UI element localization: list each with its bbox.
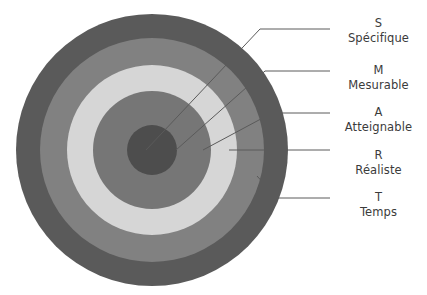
legend-entry-m: M Mesurable [330, 63, 427, 93]
legend-letter-m: M [330, 63, 427, 78]
legend: S Spécifique M Mesurable A Atteignable R… [330, 0, 427, 295]
legend-word-mesurable: Mesurable [330, 78, 427, 93]
legend-word-specifique: Spécifique [330, 31, 427, 46]
legend-word-temps: Temps [330, 205, 427, 220]
legend-entry-t: T Temps [330, 190, 427, 220]
smart-target-diagram: S Spécifique M Mesurable A Atteignable R… [0, 0, 427, 295]
legend-word-realiste: Réaliste [330, 163, 427, 178]
legend-entry-r: R Réaliste [330, 148, 427, 178]
legend-word-atteignable: Atteignable [330, 120, 427, 135]
legend-entry-a: A Atteignable [330, 105, 427, 135]
legend-letter-a: A [330, 105, 427, 120]
legend-entry-s: S Spécifique [330, 16, 427, 46]
legend-letter-s: S [330, 16, 427, 31]
legend-letter-r: R [330, 148, 427, 163]
legend-letter-t: T [330, 190, 427, 205]
ring-center-specifique [127, 125, 177, 175]
